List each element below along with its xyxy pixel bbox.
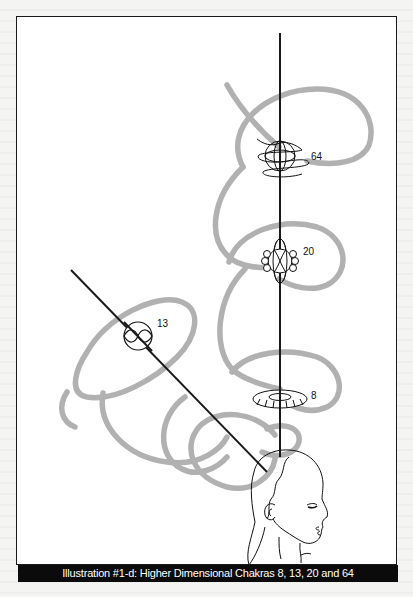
gray-spiral-streams	[62, 85, 371, 488]
chakra-64-symbol	[257, 139, 309, 177]
chakra-diagram: 64 20 13	[17, 17, 397, 565]
human-head-profile	[248, 450, 328, 565]
chakra-13-label: 13	[157, 318, 169, 329]
chakra-20-label: 20	[303, 246, 315, 257]
illustration-frame: 64 20 13	[16, 16, 397, 565]
figure-caption: Illustration #1-d: Higher Dimensional Ch…	[18, 565, 398, 582]
chakra-64-label: 64	[311, 151, 323, 162]
chakra-8-label: 8	[311, 390, 317, 401]
